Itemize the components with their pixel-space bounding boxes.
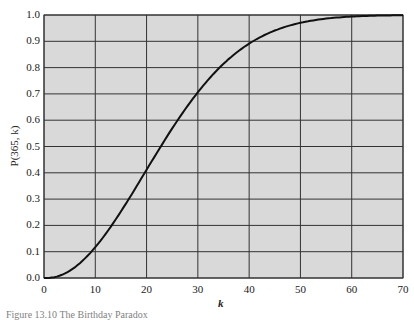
y-tick-label: 0.7: [10, 87, 40, 99]
x-tick-label: 70: [388, 283, 414, 295]
x-axis-label: k: [218, 297, 224, 309]
y-tick-label: 0.0: [10, 271, 40, 283]
y-tick-label: 0.1: [10, 245, 40, 257]
y-tick-label: 0.3: [10, 192, 40, 204]
x-tick-label: 0: [29, 283, 59, 295]
y-tick-label: 1.0: [10, 8, 40, 20]
y-axis-label: P(365, k): [8, 126, 20, 167]
y-tick-label: 0.8: [10, 61, 40, 73]
x-tick-label: 30: [183, 283, 213, 295]
y-tick-label: 0.4: [10, 166, 40, 178]
x-tick-label: 10: [80, 283, 110, 295]
y-tick-label: 0.2: [10, 218, 40, 230]
x-tick-label: 60: [337, 283, 367, 295]
x-tick-label: 20: [132, 283, 162, 295]
figure-caption: Figure 13.10 The Birthday Paradox: [6, 309, 148, 320]
x-tick-label: 40: [234, 283, 264, 295]
x-tick-label: 50: [285, 283, 315, 295]
y-tick-label: 0.6: [10, 113, 40, 125]
y-tick-label: 0.9: [10, 34, 40, 46]
